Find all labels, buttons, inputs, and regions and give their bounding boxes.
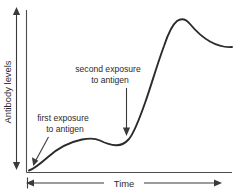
y-axis-range-arrow xyxy=(13,7,20,170)
x-axis-label: Time xyxy=(114,178,134,189)
first-exposure-pointer-line xyxy=(36,137,49,160)
y-axis-label: Antibody levels xyxy=(2,60,13,123)
second-exposure-label-line2: to antigen xyxy=(91,75,129,85)
second-exposure-label-line1: second exposure xyxy=(75,64,141,74)
second-exposure-annotation: second exposure to antigen xyxy=(75,64,141,136)
first-exposure-label-line1: first exposure xyxy=(37,113,89,123)
x-axis-arrow-right-icon xyxy=(214,179,222,186)
first-exposure-label-line2: to antigen xyxy=(46,124,84,134)
y-axis-arrow-down-icon xyxy=(13,162,20,170)
second-exposure-arrow-icon xyxy=(123,128,130,137)
antibody-level-curve xyxy=(29,19,232,170)
y-axis-arrow-up-icon xyxy=(13,7,20,15)
antibody-response-figure: Antibody levels first exposure to antige… xyxy=(0,0,233,193)
